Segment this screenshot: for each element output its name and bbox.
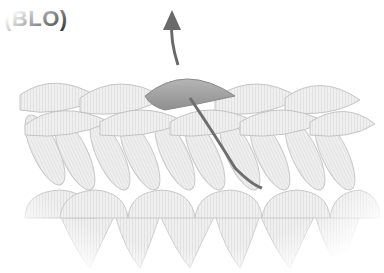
arrow-head-icon — [163, 10, 181, 30]
crochet-stitch-diagram — [0, 0, 384, 273]
bottom-stitch-row — [60, 215, 360, 268]
middle-stitch-row — [25, 190, 380, 218]
